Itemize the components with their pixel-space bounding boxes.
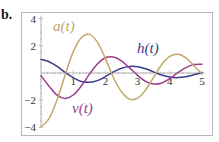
curves — [41, 34, 202, 127]
label-h: h(t) — [137, 40, 159, 57]
y-tick-label: 2 — [31, 40, 37, 52]
y-tick-label: 4 — [31, 13, 37, 25]
x-tick-label: 5 — [199, 75, 205, 87]
curve-a — [41, 34, 202, 127]
chart: 1234542−2−4 a(t) h(t) v(t) — [0, 0, 219, 142]
y-tick-label: −2 — [24, 94, 36, 106]
label-v: v(t) — [72, 100, 93, 117]
curve-h — [41, 59, 202, 82]
y-tick-label: −4 — [24, 121, 36, 133]
label-a: a(t) — [53, 18, 75, 35]
